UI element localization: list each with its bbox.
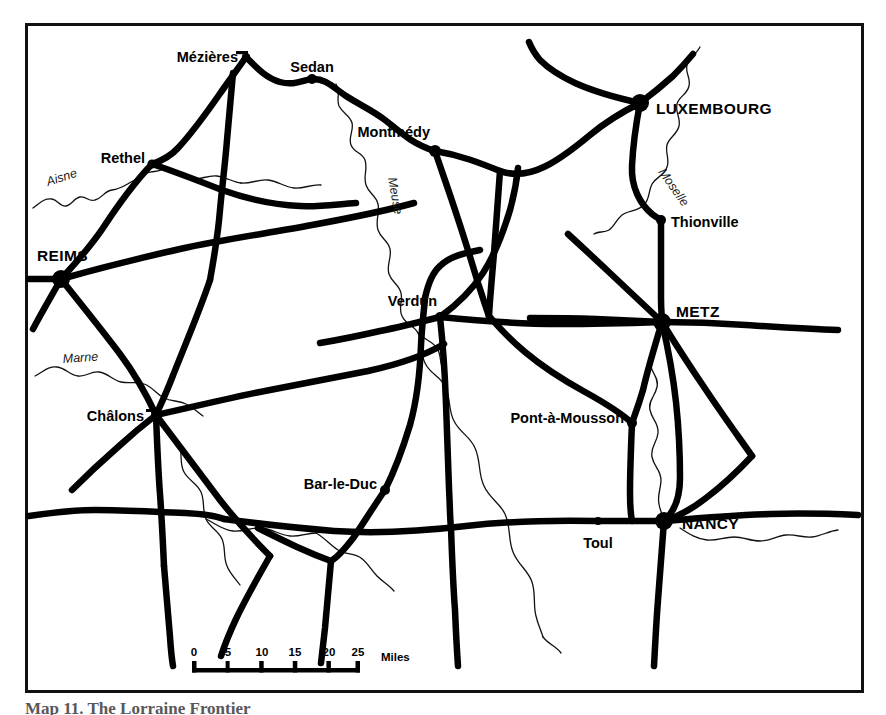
scale-bar-rule: [192, 668, 360, 673]
figure-caption: Map 11. The Lorraine Frontier: [25, 699, 251, 715]
city-dot-reims: [52, 270, 70, 288]
scale-tick-25: [356, 661, 361, 673]
road-thionville-metz: [661, 220, 662, 322]
city-dot-verdun: [435, 312, 445, 322]
city-label-thionville: Thionville: [671, 214, 739, 230]
city-dot-luxembourg: [631, 94, 649, 112]
city-label-reims: REIMS: [37, 247, 88, 264]
city-bar-chalons: [146, 409, 157, 412]
scale-tick-label-10: 10: [256, 646, 269, 658]
road-pontamousson-south: [630, 423, 632, 521]
scale-tick-5: [226, 661, 230, 673]
city-dot-rethel: [147, 159, 156, 168]
scale-tick-label-20: 20: [323, 646, 336, 658]
city-dot-nancy: [655, 512, 673, 530]
city-label-montmedy: Montmédy: [358, 124, 431, 140]
scale-tick-label-15: 15: [289, 646, 302, 658]
city-dot-thionville: [656, 215, 666, 225]
river-label-marne: Marne: [62, 350, 98, 366]
city-label-nancy: NANCY: [682, 515, 739, 532]
scale-tick-20: [326, 661, 331, 673]
scale-tick-label-25: 25: [352, 646, 365, 658]
scale-unit-label: Miles: [381, 651, 410, 663]
city-label-pontamousson: Pont-à-Mousson: [510, 410, 624, 426]
city-label-luxembourg: LUXEMBOURG: [656, 100, 772, 117]
city-label-chalons: Châlons: [87, 408, 144, 424]
city-label-verdun: Verdun: [388, 293, 437, 309]
city-label-toul: Toul: [583, 535, 613, 551]
scale-tick-label-0: 0: [191, 646, 197, 658]
city-dot-toul: [594, 517, 602, 525]
city-dot-metz: [653, 313, 671, 331]
city-label-mezieres: Mézières: [177, 49, 238, 65]
scale-tick-10: [259, 661, 264, 673]
city-dot-sedan: [307, 74, 317, 84]
scale-tick-label-5: 5: [225, 646, 232, 658]
city-dot-pontamousson: [627, 418, 637, 428]
city-dot-barleduc: [380, 485, 390, 495]
city-dot-montmedy: [429, 145, 441, 157]
city-label-rethel: Rethel: [101, 150, 145, 166]
city-label-barleduc: Bar-le-Duc: [304, 476, 377, 492]
scale-tick-0: [192, 661, 197, 673]
city-label-sedan: Sedan: [290, 59, 334, 75]
scale-tick-15: [293, 661, 298, 673]
city-label-metz: METZ: [676, 303, 720, 320]
